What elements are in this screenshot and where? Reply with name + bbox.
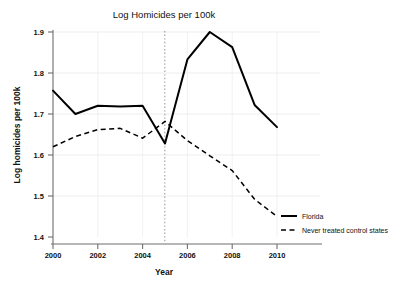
y-axis-title: Log homicides per 100k [12, 86, 22, 183]
x-tick-label-2008: 2008 [224, 251, 241, 260]
x-axis-title: Year [155, 267, 174, 277]
legend-label-never-treated-control-states: Never treated control states [302, 227, 388, 234]
x-tick-label-2006: 2006 [179, 251, 196, 260]
y-tick-label-1.5: 1.5 [34, 192, 44, 201]
x-tick-label-2002: 2002 [89, 251, 106, 260]
chart-background [0, 0, 411, 283]
chart-title: Log Homicides per 100k [113, 9, 216, 20]
y-tick-label-1.8: 1.8 [34, 69, 44, 78]
log-homicides-line-chart: Log Homicides per 100k [0, 0, 411, 283]
y-tick-label-1.9: 1.9 [34, 28, 44, 37]
y-tick-label-1.4: 1.4 [34, 233, 45, 242]
x-tick-label-2010: 2010 [269, 251, 286, 260]
chart-figure: Log Homicides per 100k [0, 0, 411, 283]
x-tick-label-2000: 2000 [45, 251, 62, 260]
x-tick-label-2004: 2004 [134, 251, 152, 260]
y-tick-label-1.6: 1.6 [34, 151, 44, 160]
y-tick-label-1.7: 1.7 [34, 110, 44, 119]
legend-label-florida: Florida [302, 213, 324, 220]
